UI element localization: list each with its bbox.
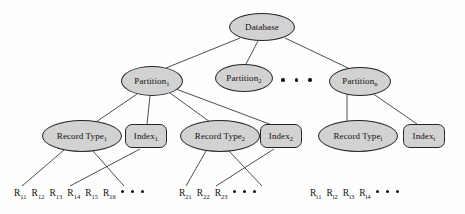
node-layer: DatabasePartition1Partition2PartitionnRe… — [0, 0, 465, 214]
node-recordtype1[interactable]: Record Type1 — [42, 120, 122, 152]
record-instance-R11[interactable]: R11 — [14, 188, 27, 198]
node-label-index1: Index1 — [134, 132, 158, 141]
record-subscript: i3 — [349, 193, 354, 200]
leaf-row-2: R21R22R23 — [179, 188, 263, 198]
record-instance-R15[interactable]: R15 — [85, 188, 98, 198]
node-label-partitionN: Partitionn — [342, 77, 377, 86]
record-instance-R22[interactable]: R22 — [197, 188, 210, 198]
record-subscript: 16 — [109, 193, 116, 200]
leaf-row-3: Ri1Ri2Ri3Ri4 — [310, 188, 406, 198]
record-subscript: 21 — [185, 193, 192, 200]
ellipsis-dot — [121, 190, 124, 193]
record-subscript: i2 — [333, 193, 338, 200]
node-label-index2: Index2 — [269, 132, 293, 141]
record-instance-R21[interactable]: R21 — [179, 188, 192, 198]
ellipsis-dot — [131, 190, 134, 193]
record-subscript: 15 — [91, 193, 98, 200]
ellipsis-dot — [376, 190, 379, 193]
record-instance-R13[interactable]: R13 — [49, 188, 62, 198]
node-label-partition1: Partition1 — [134, 77, 169, 86]
node-subscript-recordtype2: 2 — [242, 135, 245, 142]
record-subscript: 14 — [74, 193, 81, 200]
node-index1[interactable]: Index1 — [125, 124, 167, 148]
node-label-recordtypeI: Record Typei — [334, 132, 383, 141]
ellipsis-dot — [233, 190, 236, 193]
node-label-database: Database — [245, 23, 279, 32]
node-database[interactable]: Database — [229, 13, 295, 41]
record-subscript: 23 — [221, 193, 228, 200]
node-label-indexI: Indexi — [413, 132, 436, 141]
ellipsis-dot — [295, 78, 299, 82]
record-subscript: 12 — [38, 193, 45, 200]
ellipsis-dot — [308, 78, 312, 82]
record-subscript: 11 — [20, 193, 26, 200]
leaf-row-1: R11R12R13R14R15R16 — [14, 188, 151, 198]
node-partitionN[interactable]: Partitionn — [329, 67, 391, 96]
record-instance-Ri4[interactable]: Ri4 — [359, 188, 370, 198]
ellipsis-dot — [243, 190, 246, 193]
node-label-partition2: Partition2 — [226, 74, 261, 83]
node-subscript-partitionN: n — [374, 80, 377, 87]
partition-hierarchy-diagram: DatabasePartition1Partition2PartitionnRe… — [0, 0, 465, 214]
node-recordtype2[interactable]: Record Type2 — [180, 120, 260, 152]
node-subscript-partition2: 2 — [258, 77, 261, 84]
node-partition1[interactable]: Partition1 — [121, 66, 183, 96]
node-label-recordtype1: Record Type1 — [57, 132, 107, 141]
node-subscript-index2: 2 — [290, 135, 293, 142]
node-recordtypeI[interactable]: Record Typei — [318, 120, 398, 152]
record-subscript: 13 — [56, 193, 63, 200]
row-ellipsis — [233, 193, 263, 196]
node-subscript-recordtypeI: i — [381, 135, 383, 142]
node-subscript-partition1: 1 — [166, 80, 169, 87]
ellipsis-dot — [141, 190, 144, 193]
record-subscript: i4 — [366, 193, 371, 200]
record-subscript: i1 — [316, 193, 321, 200]
node-subscript-index1: 1 — [155, 135, 158, 142]
ellipsis-dot — [281, 78, 285, 82]
record-instance-R14[interactable]: R14 — [67, 188, 80, 198]
node-partition2[interactable]: Partition2 — [215, 64, 273, 92]
node-index2[interactable]: Index2 — [260, 124, 302, 148]
node-label-recordtype2: Record Type2 — [195, 132, 245, 141]
ellipsis-dot — [253, 190, 256, 193]
node-subscript-indexI: i — [434, 135, 436, 142]
row-ellipsis — [376, 193, 406, 196]
ellipsis-dot — [396, 190, 399, 193]
record-instance-R12[interactable]: R12 — [32, 188, 45, 198]
record-instance-Ri1[interactable]: Ri1 — [310, 188, 321, 198]
node-indexI[interactable]: Indexi — [403, 124, 445, 148]
record-instance-Ri2[interactable]: Ri2 — [326, 188, 337, 198]
record-subscript: 22 — [203, 193, 210, 200]
record-instance-Ri3[interactable]: Ri3 — [343, 188, 354, 198]
ellipsis-dot — [386, 190, 389, 193]
row-ellipsis — [121, 193, 151, 196]
partitions-ellipsis — [281, 78, 322, 82]
record-instance-R23[interactable]: R23 — [215, 188, 228, 198]
record-instance-R16[interactable]: R16 — [103, 188, 116, 198]
node-subscript-recordtype1: 1 — [104, 135, 107, 142]
